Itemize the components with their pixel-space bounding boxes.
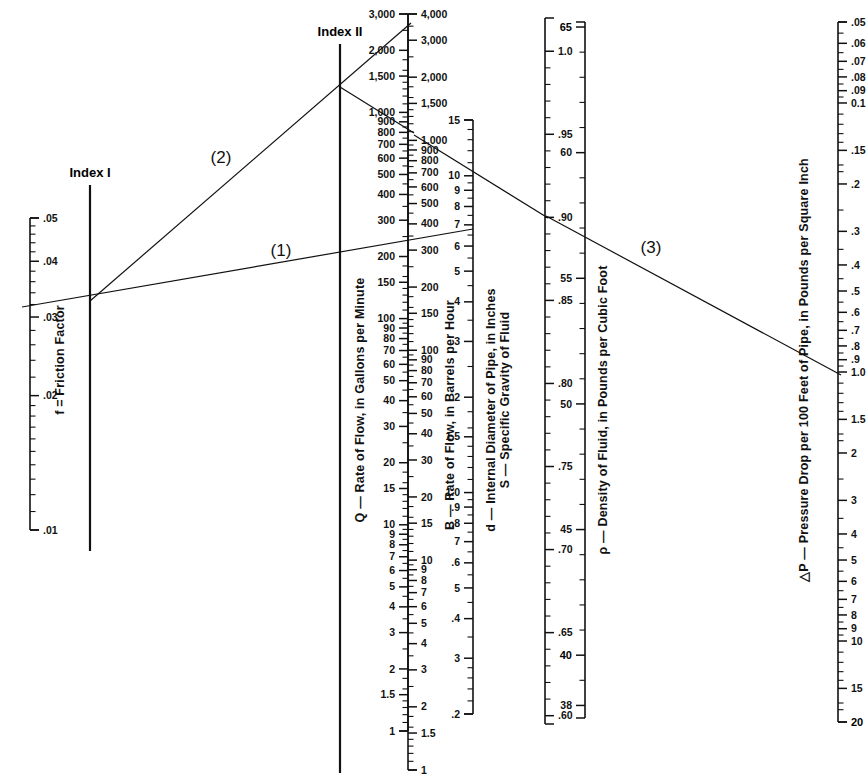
tick-label-B: 300	[421, 244, 439, 256]
tick-label-S: 1.0	[558, 45, 573, 57]
tick-label-Q: 40	[383, 394, 395, 406]
tick-label-d: 7	[454, 218, 460, 230]
tick-label-f: .04	[43, 255, 58, 267]
tick-label-rho: 65	[560, 21, 572, 33]
axis-title-B: B — Rate of Flow, in Barrels per Hour	[443, 300, 457, 530]
tick-label-Q: 70	[383, 344, 395, 356]
tick-label-S: .70	[558, 543, 573, 555]
tick-label-Q: 8	[389, 538, 395, 550]
tick-label-rho: 40	[560, 649, 572, 661]
tick-label-dP: .3	[851, 225, 860, 237]
tick-label-B: 7	[421, 586, 427, 598]
tick-label-dP: .6	[851, 306, 860, 318]
tick-label-Q: 600	[377, 152, 395, 164]
tick-label-dP: 9	[851, 622, 857, 634]
tick-label-dP: 3	[851, 494, 857, 506]
tick-label-Q: 2	[389, 663, 395, 675]
tick-label-B: 80	[421, 364, 433, 376]
tick-label-dP: .4	[851, 259, 860, 271]
axis-title-dP: △P — Pressure Drop per 100 Feet of Pipe,…	[797, 158, 811, 583]
tick-label-Q: 500	[377, 168, 395, 180]
tick-label-Q: 30	[383, 420, 395, 432]
tick-label-d: .2	[451, 708, 460, 720]
tick-label-Q: 4	[389, 600, 395, 612]
step-label-line-3: (3)	[641, 238, 662, 257]
axis-title-S: S — Specific Gravity of Fluid	[498, 312, 512, 489]
tick-label-B: 200	[421, 281, 439, 293]
tick-label-d: 9	[454, 184, 460, 196]
tick-label-d: 8	[454, 200, 460, 212]
tick-label-d: 5	[454, 582, 460, 594]
tick-label-Q: 7	[389, 550, 395, 562]
axis-title-rho: ρ — Density of Fluid, in Pounds per Cubi…	[596, 265, 610, 555]
tick-label-dP: 1.5	[851, 413, 866, 425]
tick-label-dP: 0.1	[851, 97, 866, 109]
index-2-label: Index II	[318, 24, 363, 39]
tick-label-B: 700	[421, 166, 439, 178]
tick-label-d: 3	[454, 652, 460, 664]
tick-label-S: .75	[558, 460, 573, 472]
tick-label-dP: 1.0	[851, 366, 866, 378]
tick-label-B: 4,000	[421, 8, 447, 20]
tick-label-rho: 38	[560, 699, 572, 711]
tick-label-dP: .06	[851, 37, 866, 49]
tick-label-B: 4	[421, 637, 427, 649]
tick-label-S: .80	[558, 377, 573, 389]
tick-label-B: 50	[421, 407, 433, 419]
tick-label-Q: 700	[377, 138, 395, 150]
tick-label-Q: 2,000	[369, 44, 395, 56]
tick-label-dP: 2	[851, 447, 857, 459]
tick-label-dP: .9	[851, 353, 860, 365]
tick-label-Q: 3,000	[369, 8, 395, 20]
tick-label-dP: 6	[851, 575, 857, 587]
tick-label-S: .65	[558, 626, 573, 638]
tick-label-d: 15	[448, 114, 460, 126]
tick-label-B: 2	[421, 700, 427, 712]
tick-label-B: 30	[421, 454, 433, 466]
tick-label-B: 15	[421, 517, 433, 529]
tick-label-B: 400	[421, 217, 439, 229]
tick-label-f: .01	[43, 524, 58, 536]
tick-label-Q: 50	[383, 374, 395, 386]
pressure-drop-nomograph: .05.04.03.02.013,0002,0001,5001,00090080…	[0, 0, 866, 783]
tick-label-S: .90	[558, 211, 573, 223]
tick-label-dP: 8	[851, 609, 857, 621]
tick-label-Q: 1,500	[369, 70, 395, 82]
tick-label-f: .05	[43, 212, 58, 224]
tick-label-dP: .08	[851, 71, 866, 83]
tick-label-Q: 80	[383, 332, 395, 344]
tick-label-Q: 400	[377, 188, 395, 200]
tick-label-Q: 60	[383, 358, 395, 370]
step-label-line-2: (2)	[211, 148, 232, 167]
tick-label-dP: 7	[851, 593, 857, 605]
tick-label-rho: 55	[560, 272, 572, 284]
tick-label-dP: 20	[851, 716, 863, 728]
tick-label-B: 8	[421, 574, 427, 586]
tick-label-B: 1	[421, 764, 427, 776]
tick-label-dP: 15	[851, 682, 863, 694]
tick-label-S: .95	[558, 128, 573, 140]
tick-label-Q: 300	[377, 214, 395, 226]
tick-label-d: .6	[451, 556, 460, 568]
tick-label-d: 6	[454, 240, 460, 252]
tick-label-dP: .07	[851, 55, 866, 67]
tick-label-B: 60	[421, 390, 433, 402]
tick-label-dP: .09	[851, 84, 866, 96]
tick-label-B: 150	[421, 307, 439, 319]
tick-label-dP: .7	[851, 324, 860, 336]
axis-title-d: d — Internal Diameter of Pipe, in Inches	[484, 288, 498, 531]
tick-label-dP: 10	[851, 635, 863, 647]
tick-label-Q: 5	[389, 580, 395, 592]
tick-label-dP: .05	[851, 16, 866, 28]
tick-label-B: 3	[421, 663, 427, 675]
tick-label-B: 1.5	[421, 727, 436, 739]
tick-label-Q: 3	[389, 626, 395, 638]
axis-title-f: f = Friction Factor	[53, 305, 67, 415]
tick-label-d: 10	[448, 169, 460, 181]
tick-label-d: .4	[451, 612, 460, 624]
tick-label-S: .60	[558, 709, 573, 721]
tick-label-rho: 60	[560, 146, 572, 158]
tick-label-B: 1,500	[421, 97, 447, 109]
tick-label-rho: 45	[560, 523, 572, 535]
tick-label-Q: 6	[389, 564, 395, 576]
